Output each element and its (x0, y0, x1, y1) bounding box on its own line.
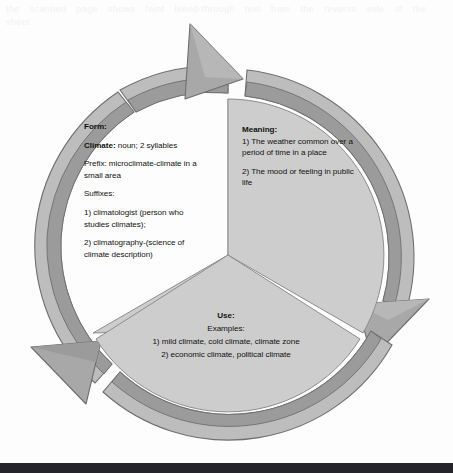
use-para-1: Examples: (136, 323, 316, 335)
form-para-5: 2) climatography-(science of climate des… (84, 237, 202, 260)
arrow-top (120, 24, 243, 112)
use-para-2: 1) mild climate, cold climate, climate z… (136, 336, 316, 348)
form-para-2: Prefix: microclimate-climate in a small … (84, 158, 202, 181)
form-heading: Form: (84, 121, 202, 133)
form-para-3: Suffixes: (84, 188, 202, 200)
use-para-3: 2) economic climate, political climate (136, 349, 316, 361)
segment-use-text: Use: Examples: 1) mild climate, cold cli… (136, 310, 316, 362)
scan-edge-bar (0, 463, 453, 473)
cycle-diagram (0, 0, 453, 473)
scanned-page: the scanned page shows faint bleed-throu… (0, 0, 453, 473)
form-para-1: Climate: noun; 2 syllables (84, 140, 202, 152)
use-heading: Use: (136, 310, 316, 322)
form-para-4: 1) climatologist (person who studies cli… (84, 207, 202, 230)
meaning-heading: Meaning: (242, 124, 354, 136)
segment-meaning-text: Meaning: 1) The weather common over a pe… (242, 124, 354, 189)
form-para-1-lead: Climate: (84, 141, 116, 150)
meaning-para-2: 2) The mood or feeling in public life (242, 166, 354, 189)
segment-form-text: Form: Climate: noun; 2 syllables Prefix:… (84, 121, 202, 260)
meaning-para-1: 1) The weather common over a period of t… (242, 136, 354, 159)
form-para-1-rest: noun; 2 syllables (116, 141, 178, 150)
